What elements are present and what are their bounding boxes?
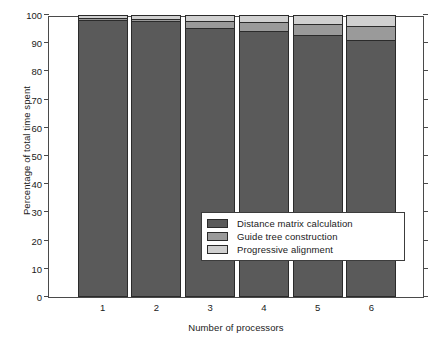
y-axis-tick-right <box>423 99 428 100</box>
y-axis-tick <box>44 70 49 71</box>
bar-chart-figure: Percentage of total time spent 010203040… <box>0 0 436 339</box>
y-axis-tick-label: 0 <box>37 292 42 303</box>
bar-segment <box>293 15 343 24</box>
y-axis-tick-right <box>423 14 428 15</box>
legend-item-label: Distance matrix calculation <box>237 218 353 229</box>
x-axis-tick-label: 3 <box>207 302 212 313</box>
y-axis-tick <box>44 42 49 43</box>
legend-item-label: Progressive alignment <box>237 244 333 255</box>
x-axis-title: Number of processors <box>48 322 424 333</box>
bar-segment <box>131 21 181 297</box>
y-axis-tick-right <box>423 127 428 128</box>
y-axis-tick-label: 100 <box>26 10 42 21</box>
y-axis-tick-right <box>423 211 428 212</box>
x-axis-tick-label: 5 <box>315 302 320 313</box>
y-axis-tick-label: 40 <box>31 179 42 190</box>
x-axis-tick-label: 2 <box>154 302 159 313</box>
y-axis-tick-right <box>423 70 428 71</box>
y-axis-tick <box>44 211 49 212</box>
bar-segment <box>78 15 128 18</box>
chart-legend: Distance matrix calculationGuide tree co… <box>201 212 405 261</box>
y-axis-tick-label: 10 <box>31 263 42 274</box>
y-axis-tick <box>44 296 49 297</box>
bar-segment <box>131 19 181 22</box>
y-axis-tick-label: 70 <box>31 94 42 105</box>
bar-segment <box>78 18 128 20</box>
y-axis-tick <box>44 127 49 128</box>
y-axis-title: Percentage of total time spent <box>21 21 32 281</box>
bar-segment <box>239 22 289 31</box>
y-axis-tick <box>44 268 49 269</box>
y-axis-tick-label: 20 <box>31 235 42 246</box>
legend-item: Guide tree construction <box>207 230 398 243</box>
x-axis-tick-label: 1 <box>100 302 105 313</box>
y-axis-tick-label: 50 <box>31 151 42 162</box>
bar-segment <box>131 15 181 19</box>
legend-color-swatch <box>207 219 228 228</box>
bar-stack <box>131 15 181 297</box>
legend-color-swatch <box>207 232 228 241</box>
legend-item: Progressive alignment <box>207 243 398 256</box>
bar-segment <box>185 15 235 21</box>
bar-segment <box>78 20 128 297</box>
bar-segment <box>346 26 396 40</box>
y-axis-tick-label: 30 <box>31 207 42 218</box>
y-axis-tick <box>44 183 49 184</box>
y-axis-tick <box>44 99 49 100</box>
legend-color-swatch <box>207 245 228 254</box>
bar-segment <box>346 15 396 26</box>
bar-segment <box>293 24 343 35</box>
y-axis-tick <box>44 155 49 156</box>
y-axis-tick-label: 80 <box>31 66 42 77</box>
y-axis-tick-right <box>423 240 428 241</box>
y-axis-tick-right <box>423 296 428 297</box>
bar-segment <box>185 21 235 28</box>
y-axis-tick-label: 60 <box>31 122 42 133</box>
bar-segment <box>239 15 289 22</box>
y-axis-tick-right <box>423 155 428 156</box>
y-axis-tick-label: 90 <box>31 38 42 49</box>
legend-item-label: Guide tree construction <box>237 231 338 242</box>
y-axis-tick-right <box>423 183 428 184</box>
y-axis-tick-right <box>423 268 428 269</box>
legend-item: Distance matrix calculation <box>207 217 398 230</box>
y-axis-tick <box>44 14 49 15</box>
y-axis-tick <box>44 240 49 241</box>
x-axis-tick-label: 4 <box>261 302 266 313</box>
y-axis-tick-right <box>423 42 428 43</box>
x-axis-tick-label: 6 <box>369 302 374 313</box>
bar-stack <box>78 15 128 297</box>
